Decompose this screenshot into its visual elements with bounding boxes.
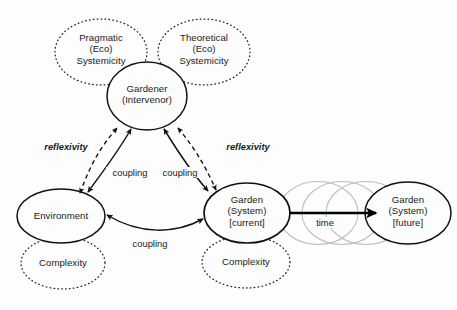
garden-future-circle[interactable] bbox=[365, 182, 451, 244]
diagram-canvas: Pragmatic (Eco) Systemicity Theoretical … bbox=[0, 0, 457, 310]
gardener-circle[interactable] bbox=[107, 62, 187, 130]
coupling-left-label: coupling bbox=[106, 167, 154, 178]
coupling-left-arrow bbox=[88, 129, 131, 192]
diagram-svg bbox=[0, 0, 457, 310]
environment-circle[interactable] bbox=[17, 189, 105, 243]
environment-complexity-circle bbox=[21, 237, 105, 289]
reflexivity-left-label: reflexivity bbox=[36, 142, 96, 153]
reflexivity-right-label: reflexivity bbox=[218, 142, 278, 153]
coupling-bottom-arrow bbox=[107, 215, 203, 230]
garden-current-circle[interactable] bbox=[204, 183, 290, 243]
coupling-right-label: coupling bbox=[156, 167, 204, 178]
time-label: time bbox=[308, 217, 342, 228]
coupling-bottom-label: coupling bbox=[125, 238, 175, 249]
